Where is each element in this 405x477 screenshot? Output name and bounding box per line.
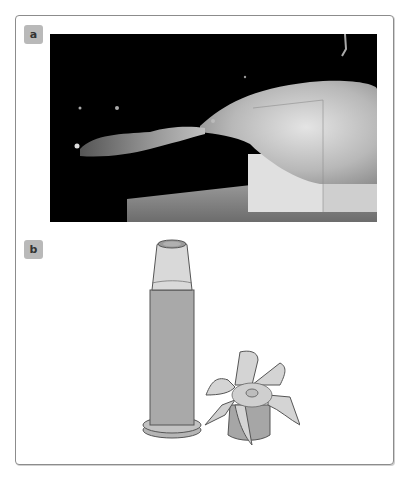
panel-label-a: a (24, 25, 43, 44)
gelatin-impact-photo (50, 34, 377, 222)
cartridge-casing (150, 290, 194, 425)
panel-label-b: b (24, 240, 43, 259)
photo-illustration (50, 34, 377, 222)
bullet-tip (152, 241, 192, 290)
bullet-illustration (140, 235, 300, 445)
expanded-hollow-point-bullet (205, 351, 300, 445)
